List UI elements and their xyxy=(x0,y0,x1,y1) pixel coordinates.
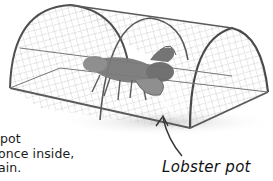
body-text-line: ain. xyxy=(0,161,74,176)
body-text-line: pot xyxy=(0,132,74,147)
body-text: pot once inside, ain. xyxy=(0,132,74,176)
body-text-line: once inside, xyxy=(0,147,74,162)
lobster-pot-caption: Lobster pot xyxy=(162,158,251,176)
